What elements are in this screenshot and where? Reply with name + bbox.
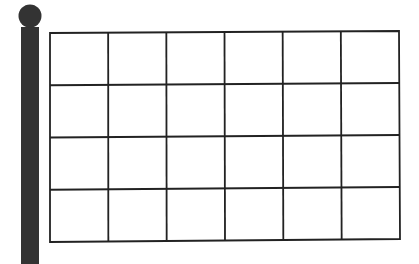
flag-scene bbox=[0, 0, 419, 264]
flag-pole bbox=[19, 5, 42, 264]
pole-shaft bbox=[21, 27, 39, 264]
grid-flag bbox=[50, 31, 400, 242]
pole-finial-ball bbox=[19, 5, 42, 28]
